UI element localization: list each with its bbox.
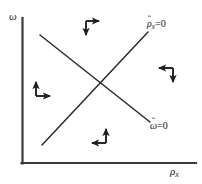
arrow-pair-right [159, 68, 173, 82]
arrow-pair-top [86, 21, 99, 35]
x-axis-label: ρx [170, 166, 179, 179]
hat-accent-omega: ˆ [152, 117, 155, 126]
omega-nullcline-label: ˆω=0 [150, 121, 168, 131]
omega-nullcline-equals: =0 [157, 120, 168, 131]
rho-x-nullcline-label: ˆρx=0 [147, 19, 166, 31]
hat-accent-rho: ˆ [148, 15, 151, 24]
phase-plane-figure: ω ρx ˆρx=0 ˆω=0 [0, 0, 202, 184]
nullcline-lines [40, 32, 150, 145]
phase-diagram-canvas [0, 0, 202, 184]
y-axis-label: ω [9, 11, 17, 22]
rho-nullcline-equals: =0 [155, 18, 166, 29]
x-axis-label-subscript: x [175, 170, 179, 179]
arrow-pair-bottom [92, 129, 106, 143]
axis-lines [22, 18, 197, 164]
arrow-pair-left [36, 82, 50, 96]
